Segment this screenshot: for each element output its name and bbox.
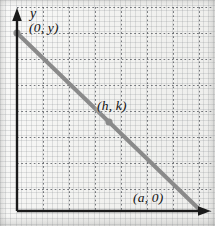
label-y-intercept: (0, y) [29, 20, 59, 36]
x-axis-arrow-icon [198, 206, 211, 216]
y-axis-arrow-icon [12, 8, 22, 21]
label-x-intercept: (a, 0) [133, 190, 163, 206]
line-graph-figure: y (0, y) (h, k) (a, 0) [0, 0, 215, 226]
label-midpoint: (h, k) [97, 98, 127, 114]
